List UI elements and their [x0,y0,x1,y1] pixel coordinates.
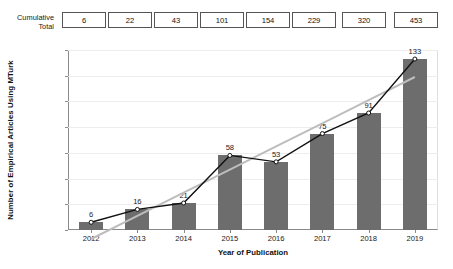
x-tick-label-2014: 2014 [162,234,206,243]
x-tick-mark-2015 [230,230,231,233]
value-marker-2016 [274,160,278,164]
cumulative-total-box-2012: 6 [62,12,106,28]
x-tick-mark-2019 [415,230,416,233]
line-overlay [68,50,438,230]
value-marker-2015 [228,153,232,157]
cumulative-total-box-2015: 101 [200,12,244,28]
x-tick-mark-2014 [184,230,185,233]
cumulative-total-box-2013: 22 [108,12,152,28]
x-tick-label-2015: 2015 [208,234,252,243]
x-tick-label-2016: 2016 [254,234,298,243]
value-marker-2018 [367,111,371,115]
x-tick-mark-2016 [276,230,277,233]
x-axis-title: Year of Publication [68,248,438,257]
cumulative-total-box-2016: 154 [246,12,290,28]
x-tick-label-2018: 2018 [347,234,391,243]
x-tick-mark-2013 [137,230,138,233]
value-marker-2019 [413,57,417,61]
x-tick-mark-2018 [369,230,370,233]
value-marker-2017 [320,132,324,136]
x-tick-label-2013: 2013 [115,234,159,243]
y-tick-mark-0 [65,230,68,231]
cumulative-total-box-2017: 229 [292,12,336,28]
cumulative-total-box-2019: 453 [394,12,438,28]
x-tick-label-2019: 2019 [393,234,437,243]
value-marker-2012 [89,220,93,224]
x-tick-label-2017: 2017 [300,234,344,243]
chart-figure: Cumulative Total 6 22 43 101 154 229 320… [0,0,453,269]
cumulative-total-box-2014: 43 [154,12,198,28]
value-marker-2014 [182,201,186,205]
y-axis-title: Number of Empirical Articles Using MTurk [6,50,18,230]
cumulative-total-row: Cumulative Total 6 22 43 101 154 229 320… [0,6,453,34]
value-line [91,59,415,222]
x-tick-mark-2012 [91,230,92,233]
x-tick-mark-2017 [322,230,323,233]
value-marker-2013 [135,207,139,211]
plot-area: 020406080100120140 201220132014201520162… [68,50,438,230]
cumulative-total-label: Cumulative Total [0,13,54,31]
cumulative-total-box-2018: 320 [342,12,386,28]
value-markers [89,57,417,224]
